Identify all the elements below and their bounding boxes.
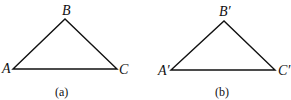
vertex-label-c: C — [119, 62, 129, 77]
caption-a: (a) — [55, 85, 68, 99]
vertex-label-a-prime: A′ — [157, 63, 171, 78]
caption-b: (b) — [215, 85, 229, 99]
figure-b: A′ B′ C′ (b) — [157, 4, 291, 99]
triangle-diagram: A B C (a) A′ B′ C′ (b) — [0, 0, 291, 100]
triangle-abc — [13, 19, 117, 69]
vertex-label-b-prime: B′ — [219, 4, 232, 19]
vertex-label-c-prime: C′ — [278, 63, 291, 78]
figure-a: A B C (a) — [1, 3, 129, 99]
vertex-label-a: A — [1, 61, 11, 76]
triangle-abc-prime — [171, 21, 275, 70]
vertex-label-b: B — [62, 3, 71, 18]
